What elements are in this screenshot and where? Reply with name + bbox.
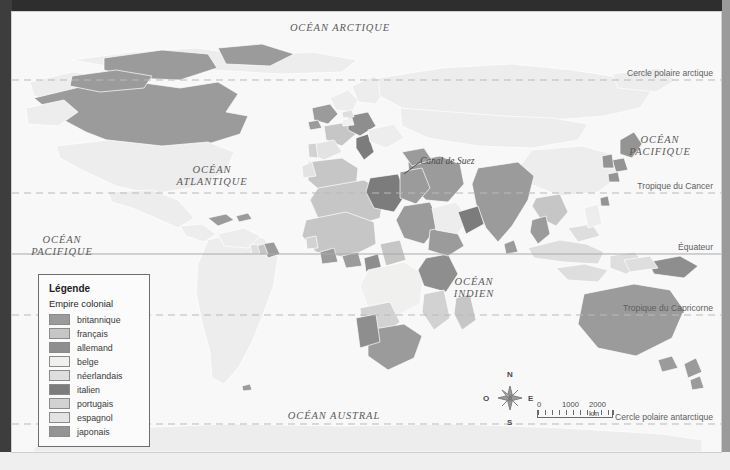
legend-item-japonais[interactable]: japonais <box>49 426 140 437</box>
legend-swatch-belge <box>49 356 70 367</box>
legend-title: Légende <box>49 283 140 294</box>
legend-panel: Légende Empire colonial britannique fran… <box>38 274 150 447</box>
legend-swatch-neerlandais <box>49 370 70 381</box>
scale-tick-0: 0 <box>537 400 541 409</box>
legend-item-portugais[interactable]: portugais <box>49 398 140 409</box>
legend-label-belge: belge <box>77 357 99 367</box>
legend-item-francais[interactable]: français <box>49 328 140 339</box>
scale-bar: 0 1000 2000 km <box>537 400 613 418</box>
compass-label-north: N <box>507 370 513 379</box>
legend-swatch-allemand <box>49 342 70 353</box>
scale-bar-labels: 0 1000 2000 km <box>537 400 613 410</box>
legend-item-neerlandais[interactable]: néerlandais <box>49 370 140 381</box>
legend-swatch-portugais <box>49 398 70 409</box>
compass-label-east: E <box>528 394 533 403</box>
legend-item-allemand[interactable]: allemand <box>49 342 140 353</box>
legend-label-francais: français <box>77 329 108 339</box>
frame-border-bottom <box>0 452 730 470</box>
legend-subtitle: Empire colonial <box>49 298 140 309</box>
compass-label-south: S <box>507 418 512 427</box>
legend-label-neerlandais: néerlandais <box>77 371 122 381</box>
compass-label-west: O <box>483 394 489 403</box>
world-map: .lnd{stroke:#ffffff;stroke-width:.7;} .b… <box>12 12 721 452</box>
scale-bar-ruler <box>537 410 613 418</box>
frame-border-left <box>0 0 12 470</box>
compass-rose: N S E O <box>482 370 538 430</box>
legend-item-belge[interactable]: belge <box>49 356 140 367</box>
legend-label-italien: italien <box>77 385 100 395</box>
legend-item-britannique[interactable]: britannique <box>49 314 140 325</box>
legend-swatch-japonais <box>49 426 70 437</box>
legend-swatch-francais <box>49 328 70 339</box>
legend-swatch-britannique <box>49 314 70 325</box>
legend-label-espagnol: espagnol <box>77 413 113 423</box>
screenshot-frame: .lnd{stroke:#ffffff;stroke-width:.7;} .b… <box>0 0 730 470</box>
legend-label-britannique: britannique <box>77 315 121 325</box>
legend-swatch-espagnol <box>49 412 70 423</box>
frame-border-right <box>722 0 730 470</box>
scale-tick-1000: 1000 <box>562 400 579 409</box>
legend-item-espagnol[interactable]: espagnol <box>49 412 140 423</box>
legend-label-allemand: allemand <box>77 343 113 353</box>
legend-label-japonais: japonais <box>77 427 110 437</box>
legend-swatch-italien <box>49 384 70 395</box>
legend-label-portugais: portugais <box>77 399 113 409</box>
legend-item-italien[interactable]: italien <box>49 384 140 395</box>
